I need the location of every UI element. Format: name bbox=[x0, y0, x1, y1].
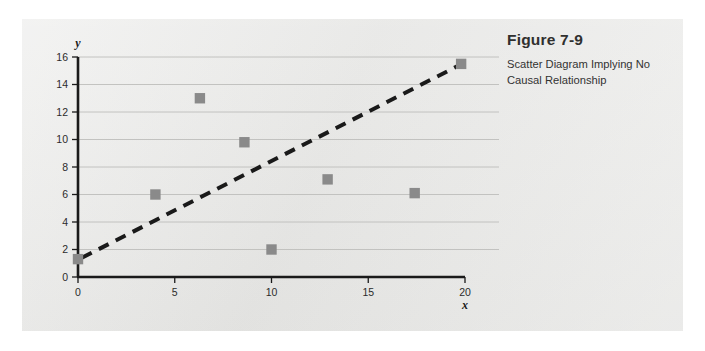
x-tick-label: 0 bbox=[75, 286, 81, 298]
x-axis-label: x bbox=[461, 298, 468, 312]
y-axis-label: y bbox=[73, 36, 81, 50]
figure-root: 0246810121416 05101520 y x Figure 7-9 Sc… bbox=[0, 0, 705, 351]
figure-number: Figure 7-9 bbox=[507, 31, 687, 48]
data-point-marker bbox=[73, 254, 83, 264]
data-point-marker bbox=[322, 174, 332, 184]
y-tick-label: 6 bbox=[62, 188, 68, 200]
data-point-marker bbox=[266, 244, 276, 254]
figure-panel: 0246810121416 05101520 y x Figure 7-9 Sc… bbox=[22, 19, 683, 331]
y-tick-label: 2 bbox=[62, 243, 68, 255]
data-point-marker bbox=[150, 189, 160, 199]
scatter-chart: 0246810121416 05101520 y x bbox=[22, 19, 522, 331]
x-tick-label: 20 bbox=[459, 286, 471, 298]
y-tick-label: 10 bbox=[56, 133, 68, 145]
x-tick-label: 15 bbox=[362, 286, 374, 298]
y-ticks-group: 0246810121416 bbox=[56, 51, 78, 283]
y-tick-label: 0 bbox=[62, 271, 68, 283]
data-point-marker bbox=[239, 137, 249, 147]
y-tick-label: 4 bbox=[62, 216, 68, 228]
data-point-marker bbox=[456, 59, 466, 69]
data-point-marker bbox=[195, 93, 205, 103]
y-tick-label: 16 bbox=[56, 51, 68, 63]
y-tick-label: 14 bbox=[56, 78, 68, 90]
chart-svg: 0246810121416 05101520 y x bbox=[22, 19, 522, 331]
x-tick-label: 10 bbox=[266, 286, 278, 298]
x-ticks-group: 05101520 bbox=[75, 277, 471, 298]
caption-block: Figure 7-9 Scatter Diagram Implying No C… bbox=[507, 31, 687, 88]
figure-caption: Scatter Diagram Implying No Causal Relat… bbox=[507, 57, 667, 88]
trend-line bbox=[82, 65, 459, 258]
data-point-marker bbox=[409, 188, 419, 198]
y-tick-label: 8 bbox=[62, 161, 68, 173]
y-tick-label: 12 bbox=[56, 106, 68, 118]
x-tick-label: 5 bbox=[172, 286, 178, 298]
trendline-group bbox=[82, 65, 459, 258]
